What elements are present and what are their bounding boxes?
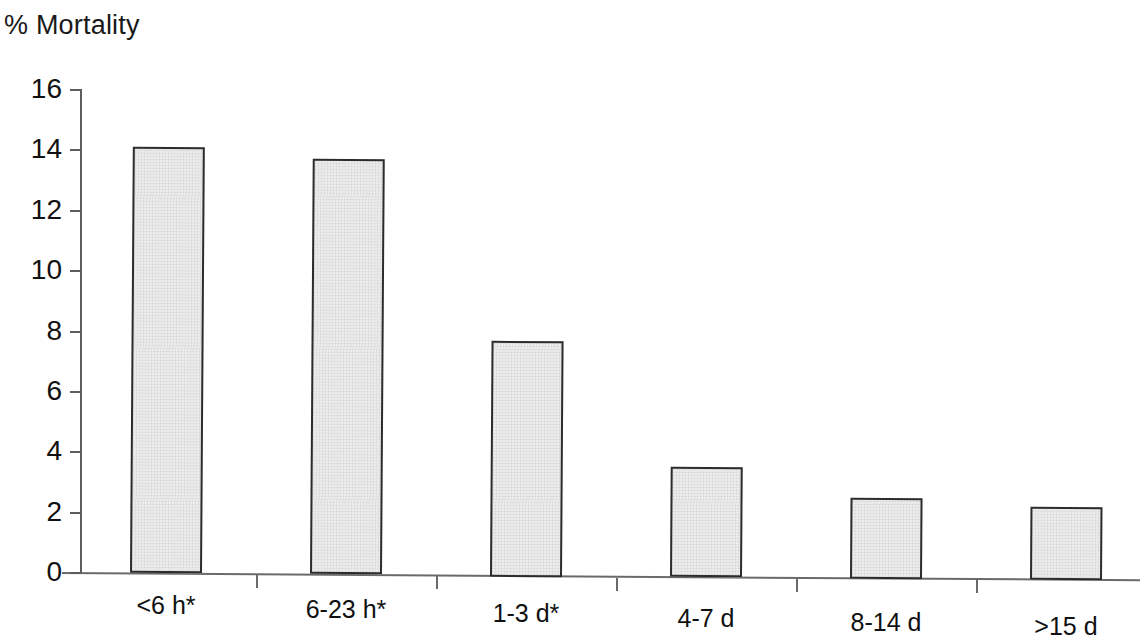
y-axis-tick bbox=[70, 89, 81, 91]
y-axis-tick-label: 16 bbox=[0, 75, 62, 103]
bar bbox=[490, 340, 564, 576]
bar bbox=[850, 497, 923, 578]
y-axis-tick-label: 6 bbox=[0, 377, 62, 405]
y-axis-tick-label-text: 12 bbox=[12, 196, 62, 224]
x-axis-category-label: 6-23 h* bbox=[256, 594, 436, 624]
y-axis-tick bbox=[70, 149, 81, 151]
y-axis-tick bbox=[70, 331, 81, 333]
y-axis-tick-label-text: 4 bbox=[12, 437, 62, 465]
y-axis-tick bbox=[70, 451, 81, 453]
x-axis-category-label: >15 d bbox=[976, 611, 1146, 639]
y-axis-tick bbox=[70, 512, 81, 514]
bar bbox=[130, 147, 205, 574]
bar bbox=[1030, 506, 1102, 580]
bar-chart-figure: % Mortality 1614121086420 <6 h*6-23 h*1-… bbox=[0, 0, 1146, 639]
y-axis-tick-label: 10 bbox=[0, 256, 62, 284]
y-axis-tick-label-text: 14 bbox=[12, 135, 62, 163]
x-axis-category-label: 4-7 d bbox=[616, 603, 796, 633]
y-axis-tick-label: 2 bbox=[0, 498, 62, 526]
y-axis-tick-label: 14 bbox=[0, 135, 62, 163]
x-axis-category-label: 1-3 d* bbox=[436, 598, 616, 628]
y-axis-tick bbox=[70, 572, 81, 574]
x-axis-line bbox=[62, 572, 1140, 581]
x-axis-tick bbox=[436, 576, 438, 589]
x-axis-category-label: 8-14 d bbox=[796, 607, 976, 637]
y-axis-tick-label-text: 16 bbox=[12, 75, 62, 103]
y-axis-tick bbox=[70, 210, 81, 212]
y-axis-tick-label-text: 8 bbox=[12, 317, 62, 345]
plot-area: 1614121086420 <6 h*6-23 h*1-3 d*4-7 d8-1… bbox=[0, 0, 1146, 639]
y-axis-tick-label: 8 bbox=[0, 317, 62, 345]
bar bbox=[670, 467, 743, 577]
y-axis-tick-label: 12 bbox=[0, 196, 62, 224]
y-axis-tick bbox=[70, 270, 81, 272]
x-axis-tick bbox=[256, 575, 258, 588]
x-axis-tick bbox=[976, 580, 978, 593]
y-axis-tick-label: 0 bbox=[0, 558, 62, 586]
y-axis-tick-label: 4 bbox=[0, 437, 62, 465]
bar bbox=[310, 159, 385, 575]
y-axis-tick-label-text: 10 bbox=[12, 256, 62, 284]
x-axis-category-label: <6 h* bbox=[76, 590, 256, 620]
y-axis-tick-label-text: 6 bbox=[12, 377, 62, 405]
x-axis-tick bbox=[796, 579, 798, 592]
y-axis-tick-label-text: 0 bbox=[12, 558, 62, 586]
x-axis-tick bbox=[616, 578, 618, 591]
y-axis-tick-label-text: 2 bbox=[12, 498, 62, 526]
y-axis-tick bbox=[70, 391, 81, 393]
